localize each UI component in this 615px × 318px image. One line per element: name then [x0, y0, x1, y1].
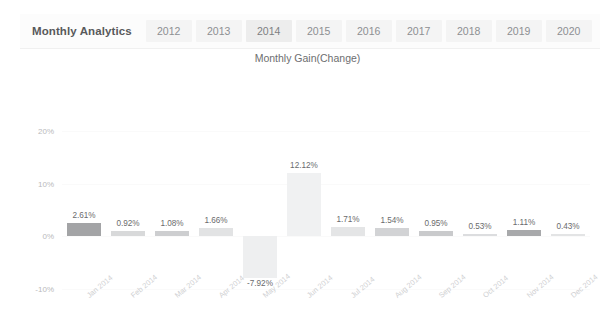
bar-value-label: 0.95% [414, 219, 458, 228]
bar-group: 1.54% [370, 131, 414, 289]
chart-bar[interactable] [243, 236, 276, 278]
tab-2019[interactable]: 2019 [496, 20, 542, 42]
chart-plot-area: -10%0%10%20%Jan 20142.61%Feb 20140.92%Ma… [62, 131, 590, 289]
chart-bar[interactable] [419, 231, 452, 236]
bar-value-label: 1.66% [194, 216, 238, 225]
y-axis-tick-label: 0% [42, 232, 54, 241]
bar-value-label: 1.54% [370, 216, 414, 225]
chart-bar[interactable] [463, 234, 496, 237]
bar-group: 0.92% [106, 131, 150, 289]
y-axis-tick-label: 20% [38, 127, 54, 136]
bar-group: 0.53% [458, 131, 502, 289]
y-axis-tick-label: -10% [35, 285, 54, 294]
bar-value-label: 0.92% [106, 219, 150, 228]
tab-2020[interactable]: 2020 [546, 20, 592, 42]
chart-bar[interactable] [67, 223, 100, 237]
chart-bar[interactable] [199, 228, 232, 237]
tab-2016[interactable]: 2016 [346, 20, 392, 42]
bar-value-label: 2.61% [62, 211, 106, 220]
bar-group: 2.61% [62, 131, 106, 289]
year-tab-strip: 2012 2013 2014 2015 2016 2017 2018 2019 … [146, 20, 592, 42]
tab-2015[interactable]: 2015 [296, 20, 342, 42]
chart-bar[interactable] [111, 231, 144, 236]
tab-2012[interactable]: 2012 [146, 20, 192, 42]
bar-group: 1.71% [326, 131, 370, 289]
bar-value-label: 0.43% [546, 222, 590, 231]
bar-group: 12.12% [282, 131, 326, 289]
chart-bar[interactable] [331, 227, 364, 236]
chart-bar[interactable] [375, 228, 408, 236]
bar-group: 1.66% [194, 131, 238, 289]
monthly-analytics-panel: Monthly Analytics 2012 2013 2014 2015 20… [20, 14, 600, 49]
chart-bar[interactable] [507, 230, 540, 236]
bar-value-label: 1.71% [326, 215, 370, 224]
chart-bar[interactable] [551, 234, 584, 236]
chart-bar[interactable] [287, 173, 320, 237]
y-axis-tick-label: 10% [38, 179, 54, 188]
tab-2018[interactable]: 2018 [446, 20, 492, 42]
chart-bar[interactable] [155, 231, 188, 237]
bar-value-label: 1.08% [150, 219, 194, 228]
monthly-gain-chart: Monthly Gain(Change) -10%0%10%20%Jan 201… [0, 48, 615, 318]
chart-title: Monthly Gain(Change) [0, 52, 615, 64]
bar-group: 1.08% [150, 131, 194, 289]
bar-group: 0.43% [546, 131, 590, 289]
page-title: Monthly Analytics [32, 25, 132, 37]
bar-group: 0.95% [414, 131, 458, 289]
bar-value-label: 12.12% [282, 161, 326, 170]
bar-value-label: 1.11% [502, 218, 546, 227]
bar-value-label: -7.92% [238, 279, 282, 288]
bar-value-label: 0.53% [458, 222, 502, 231]
tab-2014[interactable]: 2014 [246, 20, 292, 42]
tab-2013[interactable]: 2013 [196, 20, 242, 42]
tab-2017[interactable]: 2017 [396, 20, 442, 42]
bar-group: -7.92% [238, 131, 282, 289]
bar-group: 1.11% [502, 131, 546, 289]
